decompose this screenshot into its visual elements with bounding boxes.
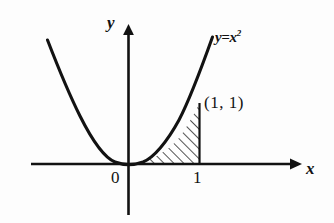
curve-equation-exponent: 2 — [237, 28, 241, 38]
curve-equation-label: y=x2 — [215, 29, 241, 45]
graph-svg — [0, 0, 334, 223]
x-tick-label-one: 1 — [193, 169, 202, 186]
shaded-area-group — [120, 95, 210, 170]
figure-canvas: y x y=x2 0 1 (1, 1) — [0, 0, 334, 223]
y-axis-arrowhead — [123, 24, 134, 35]
curve-equation-base: y=x — [215, 29, 237, 45]
point-coordinate-label: (1, 1) — [204, 94, 244, 111]
x-axis-arrowhead — [290, 159, 302, 170]
y-axis-group — [123, 24, 134, 215]
x-axis-label: x — [306, 160, 315, 177]
origin-tick-label: 0 — [111, 169, 120, 186]
y-axis-label: y — [107, 14, 115, 31]
shaded-area-hatch — [120, 95, 210, 170]
